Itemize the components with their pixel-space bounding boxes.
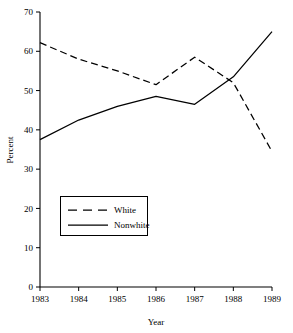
x-tick-label: 1987 bbox=[186, 294, 205, 304]
y-axis-ticks bbox=[36, 12, 40, 287]
x-tick-label: 1985 bbox=[108, 294, 127, 304]
x-axis-ticks bbox=[40, 287, 272, 291]
legend-label-nonwhite: Nonwhite bbox=[114, 220, 150, 230]
chart-canvas: 010203040506070 198319841985198619871988… bbox=[0, 0, 293, 333]
y-tick-label: 40 bbox=[24, 125, 34, 135]
x-tick-label: 1986 bbox=[147, 294, 166, 304]
y-tick-label: 20 bbox=[24, 204, 34, 214]
legend: WhiteNonwhite bbox=[61, 197, 150, 236]
y-tick-label: 10 bbox=[24, 243, 34, 253]
y-tick-label: 30 bbox=[24, 164, 34, 174]
y-axis-title: Percent bbox=[5, 136, 15, 163]
y-axis-tick-labels: 010203040506070 bbox=[24, 7, 34, 292]
series-line-nonwhite bbox=[40, 32, 272, 140]
y-tick-label: 50 bbox=[24, 86, 34, 96]
y-tick-label: 0 bbox=[29, 282, 34, 292]
x-tick-label: 1988 bbox=[224, 294, 243, 304]
y-tick-label: 70 bbox=[24, 7, 34, 17]
legend-label-white: White bbox=[114, 205, 136, 215]
x-axis-tick-labels: 1983198419851986198719881989 bbox=[31, 294, 282, 304]
x-tick-label: 1989 bbox=[263, 294, 282, 304]
line-chart: 010203040506070 198319841985198619871988… bbox=[0, 0, 293, 333]
x-tick-label: 1984 bbox=[70, 294, 89, 304]
data-series-group bbox=[40, 32, 272, 152]
x-tick-label: 1983 bbox=[31, 294, 50, 304]
x-axis-title: Year bbox=[148, 317, 165, 327]
y-tick-label: 60 bbox=[24, 46, 34, 56]
